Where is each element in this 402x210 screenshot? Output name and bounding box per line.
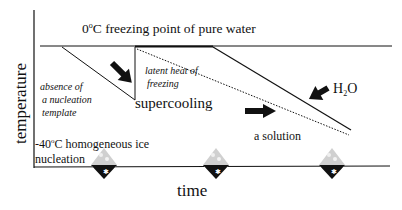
solution-label: a solution [254,130,301,142]
latent-heat-label: latent heat of freezing [145,64,198,90]
homogeneous-nucleation-label: -40oC homogeneous ice nucleation [35,134,155,167]
h2o-label: H2O [333,82,357,98]
ice-crystal-diamond-icon: ✱ [319,148,345,179]
freezing-diagram: ✱ ✱ ✱ 0oC freezing point of pure water t… [0,0,402,210]
pure-water-cooling-line [213,47,351,130]
svg-text:✱: ✱ [215,168,221,176]
svg-text:✱: ✱ [103,168,109,176]
arrow-supercooling-icon [106,57,137,88]
x-axis-label: time [177,182,207,199]
freezing-point-label: 0oC freezing point of pure water [82,22,256,36]
ice-crystal-diamond-icon: ✱ [203,148,229,179]
y-axis-label: temperature [12,54,29,154]
arrow-h2o-icon [305,81,332,106]
arrow-solution-icon [245,104,276,118]
absence-of-template-label: absence of a nucleation template [40,80,92,119]
svg-text:✱: ✱ [331,168,337,176]
supercooling-label: supercooling [135,96,212,111]
